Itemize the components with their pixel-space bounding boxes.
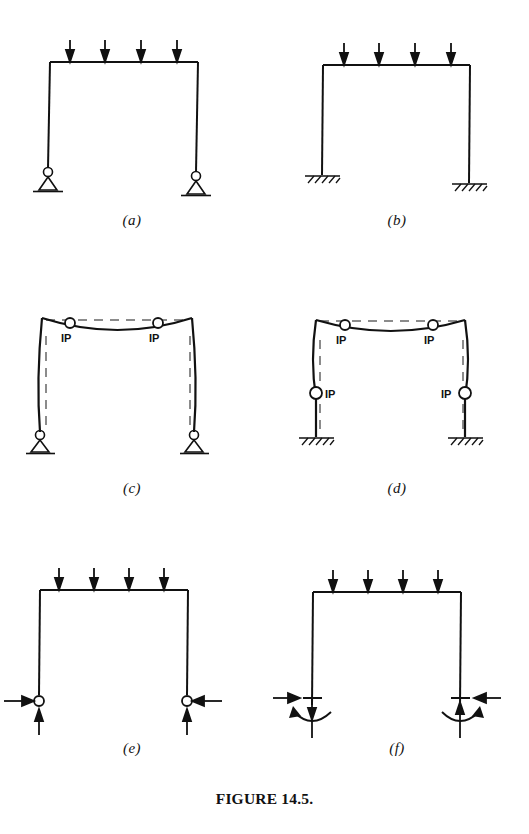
inflection-point-beam-left (65, 318, 75, 328)
fixed-support-left (305, 176, 340, 183)
pin-support-left (26, 431, 55, 454)
horizontal-reaction-left (273, 693, 300, 703)
deflected-column-right (465, 320, 468, 437)
load-arrow (399, 570, 407, 592)
load-arrow (160, 568, 168, 590)
load-arrow-group (329, 570, 442, 592)
load-arrow-group (55, 568, 168, 590)
load-arrow (55, 568, 63, 590)
frame-column-left (312, 592, 313, 705)
pin-support-right (181, 172, 211, 196)
panel-caption-f: (f) (265, 740, 529, 757)
inflection-point-beam-right (428, 320, 438, 330)
load-arrow (375, 43, 383, 65)
ip-label: IP (325, 388, 335, 400)
moment-arrowhead-left (289, 706, 301, 718)
frame-column-right (469, 65, 470, 183)
deflected-column-right (192, 318, 196, 432)
load-arrow (137, 40, 145, 62)
panel-caption-c: (c) (0, 480, 264, 497)
panel-caption-d: (d) (265, 480, 529, 497)
load-arrow-group (340, 43, 455, 65)
load-arrow (66, 40, 74, 62)
panel-caption-a: (a) (0, 212, 264, 229)
frame-column-right (196, 62, 198, 172)
frame-column-left (322, 65, 323, 175)
inflection-point-beam-left (340, 320, 350, 330)
load-arrow (125, 568, 133, 590)
ip-label: IP (424, 334, 434, 346)
moment-arrowhead-right (472, 706, 484, 718)
inflection-point-beam-right (153, 318, 163, 328)
vertical-reaction-left (35, 709, 43, 735)
figure-title: FIGURE 14.5. (0, 790, 529, 808)
load-arrow (364, 570, 372, 592)
horizontal-reaction-left (4, 696, 34, 706)
load-arrow (101, 40, 109, 62)
pin-support-right (180, 431, 209, 454)
deflected-column-left (38, 318, 42, 432)
vertical-reaction-right (183, 709, 191, 735)
fixed-support-right (448, 438, 483, 445)
frame-column-right (187, 590, 188, 695)
frame-column-left (39, 590, 40, 695)
load-arrow-group (66, 40, 181, 62)
horizontal-reaction-right (192, 696, 222, 706)
panel-caption-e: (e) (0, 740, 264, 757)
frame-column-left (48, 62, 50, 168)
ip-label: IP (149, 332, 159, 344)
load-arrow (329, 570, 337, 592)
vertical-reaction-left (308, 698, 316, 738)
frame-column-right (460, 592, 461, 705)
figure-sheet: (a) (0, 0, 529, 834)
fixed-support-right (452, 184, 487, 191)
inflection-point-column-right (459, 387, 471, 399)
load-arrow (411, 43, 419, 65)
fixed-support-left (299, 438, 334, 445)
load-arrow (447, 43, 455, 65)
panel-caption-b: (b) (265, 212, 529, 229)
load-arrow (434, 570, 442, 592)
load-arrow (90, 568, 98, 590)
deflected-column-left (313, 320, 316, 437)
ip-label: IP (336, 334, 346, 346)
ip-label: IP (441, 388, 451, 400)
horizontal-reaction-right (474, 693, 501, 703)
inflection-point-column-left (310, 387, 322, 399)
ip-label: IP (61, 332, 71, 344)
load-arrow (173, 40, 181, 62)
load-arrow (340, 43, 348, 65)
pin-support-left (33, 168, 63, 192)
